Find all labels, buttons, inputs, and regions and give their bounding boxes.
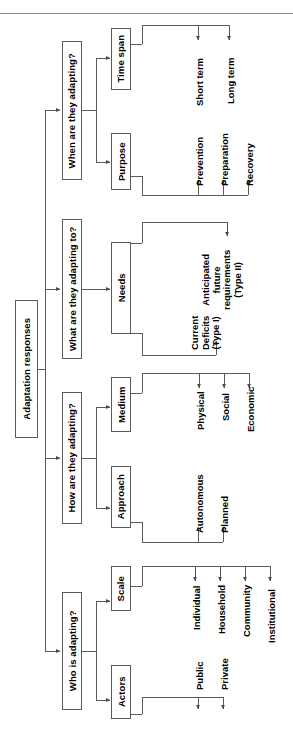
- category-node-approach[interactable]: Approach: [111, 466, 131, 528]
- category-node-needs[interactable]: Needs: [111, 242, 131, 334]
- category-node-needs-label: Needs: [116, 273, 126, 302]
- root-node-adaptation-responses[interactable]: Adaptation responses: [15, 300, 38, 438]
- category-node-approach-label: Approach: [116, 474, 126, 519]
- leaf-label-recovery: Recovery: [245, 143, 256, 186]
- question-node-what[interactable]: What are they adapting to?: [62, 219, 82, 359]
- category-node-purpose[interactable]: Purpose: [111, 133, 131, 190]
- category-node-medium[interactable]: Medium: [111, 377, 131, 432]
- leaf-label-short-term: Short term: [195, 58, 206, 106]
- leaf-label-anticipated-future-requirements: Anticipated future requirements (Type II…: [201, 250, 244, 310]
- top-divider-rule: [0, 13, 293, 14]
- leaf-label-planned: Planned: [220, 496, 231, 533]
- question-node-how[interactable]: How are they adapting?: [62, 392, 82, 524]
- question-node-when[interactable]: When are they adapting?: [62, 41, 82, 180]
- question-node-what-label: What are they adapting to?: [67, 227, 77, 352]
- leaf-label-social: Social: [221, 393, 232, 421]
- category-node-scale-label: Scale: [116, 576, 126, 601]
- category-node-actors-label: Actors: [116, 677, 126, 708]
- category-node-actors[interactable]: Actors: [111, 665, 131, 719]
- category-node-scale[interactable]: Scale: [111, 566, 131, 611]
- root-node-label: Adaptation responses: [22, 318, 32, 420]
- leaf-label-institutional: Institutional: [267, 589, 278, 643]
- question-node-who[interactable]: Who is adapting?: [62, 592, 82, 710]
- leaf-label-physical: Physical: [196, 391, 207, 430]
- question-node-when-label: When are they adapting?: [67, 53, 77, 168]
- leaf-label-autonomous: Autonomous: [195, 474, 206, 533]
- leaf-label-prevention: Prevention: [195, 137, 206, 186]
- leaf-label-long-term: Long term: [226, 58, 237, 104]
- leaf-label-community: Community: [242, 585, 253, 637]
- leaf-label-household: Household: [217, 585, 228, 634]
- category-node-medium-label: Medium: [116, 386, 126, 423]
- question-node-who-label: Who is adapting?: [67, 611, 77, 692]
- leaf-label-individual: Individual: [192, 586, 203, 630]
- question-node-how-label: How are they adapting?: [67, 403, 77, 512]
- category-node-purpose-label: Purpose: [116, 142, 126, 181]
- category-node-time-span-label: Time span: [116, 35, 126, 83]
- leaf-label-preparation: Preparation: [220, 133, 231, 186]
- leaf-label-current-deficits: Current Deficits (Type I): [190, 316, 222, 350]
- leaf-label-economic: Economic: [246, 387, 257, 432]
- category-node-time-span[interactable]: Time span: [111, 28, 131, 90]
- diagram-canvas: Adaptation responses When are they adapt…: [0, 0, 293, 734]
- leaf-label-public: Public: [195, 661, 206, 690]
- leaf-label-private: Private: [220, 658, 231, 690]
